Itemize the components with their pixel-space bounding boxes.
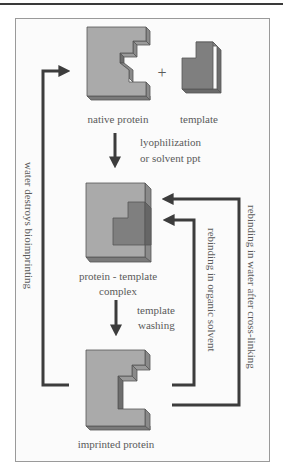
step1-label-line2: or solvent ppt [140,152,201,165]
step1-label-line1: lyophilization [140,136,201,149]
inner-right-loop-arrow [171,220,194,385]
native-protein-label: native protein [88,113,149,126]
imprinted-protein-label: imprinted protein [78,438,155,451]
outer-right-loop-arrow [170,199,239,405]
complex-label-line2: complex [99,285,137,298]
inner-right-loop-label: rebinding in organic solvent [206,228,218,352]
complex-shape [86,183,151,262]
complex-label-line1: protein - template [79,270,157,283]
left-loop-arrow [43,71,69,385]
plus-sign: + [157,64,166,81]
imprinted-protein-shape [86,350,150,430]
outer-right-loop-label: rebinding in water after cross-linking [246,205,258,369]
diagram-canvas: + [0,0,283,475]
template-label: template [180,113,218,126]
step2-label-line2: washing [138,319,175,332]
step2-label-line1: template [137,304,175,317]
left-loop-label: water destroys bioimprinting [23,162,35,289]
native-protein-shape [87,27,150,100]
template-shape [182,42,221,93]
